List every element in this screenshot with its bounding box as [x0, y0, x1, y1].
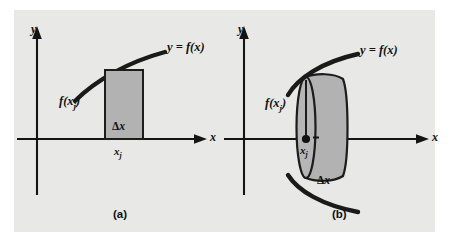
panel-a-width-label-variable: x	[119, 120, 125, 132]
panel-b-height-label-main: f(x	[265, 96, 280, 110]
panel-b-point-label: xj	[300, 145, 308, 159]
figure-drawing	[0, 0, 450, 241]
panel-a-caption: (a)	[113, 209, 127, 221]
panel-b-y-axis-label: y	[238, 23, 243, 35]
panel-a-point-label-subscript: j	[120, 151, 122, 160]
panel-a-height-label-tail: )	[76, 94, 80, 108]
panel-a-height-label: f(xj)	[59, 95, 80, 111]
panel-b-width-label: Δx	[317, 175, 330, 187]
panel-a-curve-label: y = f(x)	[167, 41, 205, 54]
panel-a-width-label: Δx	[112, 121, 125, 133]
panel-a-point-label: xj	[114, 146, 122, 160]
panel-b-height-label-tail: )	[282, 96, 286, 110]
panel-b-width-label-variable: x	[324, 174, 330, 186]
panel-b-curve-label: y = f(x)	[360, 44, 398, 57]
panel-a-x-axis-label: x	[210, 131, 216, 143]
panel-b-sample-point-dot	[302, 135, 310, 143]
panel-b-point-label-subscript: j	[306, 150, 308, 159]
panel-a-height-label-main: f(x	[59, 94, 74, 108]
panel-b-caption: (b)	[332, 209, 347, 221]
panel-b-height-label: f(xj)	[265, 97, 286, 113]
figure-container: y x y = f(x) f(xj) Δx xj (a) y x y = f(x…	[0, 0, 450, 241]
panel-b-x-axis-label: x	[432, 131, 438, 143]
panel-a-y-axis-label: y	[31, 23, 36, 35]
